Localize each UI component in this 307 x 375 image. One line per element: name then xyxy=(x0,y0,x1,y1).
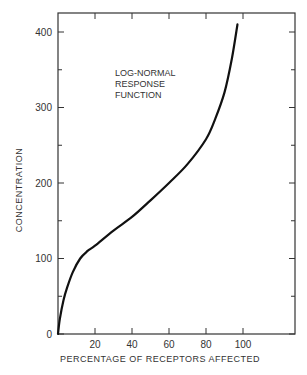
chart: 010020030040020406080100 LOG-NORMALRESPO… xyxy=(0,0,307,375)
plot-border xyxy=(58,13,295,334)
y-tick-label: 100 xyxy=(35,253,52,264)
x-tick-label: 20 xyxy=(89,339,101,350)
x-tick-label: 60 xyxy=(163,339,175,350)
y-tick-label: 200 xyxy=(35,178,52,189)
y-tick-label: 400 xyxy=(35,27,52,38)
x-tick-label: 100 xyxy=(235,339,252,350)
axis-ticks xyxy=(58,13,295,334)
x-axis-label: PERCENTAGE OF RECEPTORS AFFECTED xyxy=(60,354,260,364)
curve-annotation: LOG-NORMALRESPONSEFUNCTION xyxy=(115,68,176,100)
x-tick-label: 80 xyxy=(200,339,212,350)
y-axis-label: CONCENTRATION xyxy=(14,148,24,232)
x-tick-label: 40 xyxy=(126,339,138,350)
y-tick-label: 0 xyxy=(46,329,52,340)
y-tick-label: 300 xyxy=(35,102,52,113)
plot-frame xyxy=(58,13,295,334)
